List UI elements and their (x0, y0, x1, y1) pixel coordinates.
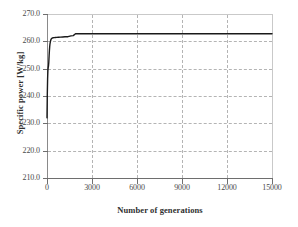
x-axis-title: Number of generations (47, 205, 273, 215)
y-axis-tick-label: 210.0 (0, 174, 40, 182)
y-axis-tick (43, 123, 48, 124)
gridline-horizontal (48, 151, 272, 152)
y-axis-tick (43, 151, 48, 152)
x-axis-tick-label: 15000 (250, 184, 294, 192)
y-axis-title: Specific power [W/kg] (15, 11, 25, 175)
x-axis-tick-label: 6000 (115, 184, 159, 192)
x-axis-tick-label: 9000 (160, 184, 204, 192)
gridline-horizontal (48, 96, 272, 97)
chart-figure: 210.0220.0230.0240.0250.0260.0270.0 0300… (0, 0, 298, 227)
y-axis-tick (43, 96, 48, 97)
plot-border-top (47, 14, 273, 15)
y-axis-tick (43, 41, 48, 42)
x-axis-tick-label: 3000 (70, 184, 114, 192)
gridline-horizontal (48, 69, 272, 70)
x-axis-tick-label: 0 (25, 184, 69, 192)
gridline-vertical (137, 15, 138, 178)
y-axis-tick (43, 14, 48, 15)
gridline-vertical (227, 15, 228, 178)
y-axis-tick (43, 69, 48, 70)
x-axis-line (47, 178, 273, 179)
plot-border-right (272, 14, 273, 179)
gridline-vertical (92, 15, 93, 178)
x-axis-tick-label: 12000 (205, 184, 249, 192)
gridline-horizontal (48, 41, 272, 42)
gridline-horizontal (48, 123, 272, 124)
gridline-vertical (182, 15, 183, 178)
